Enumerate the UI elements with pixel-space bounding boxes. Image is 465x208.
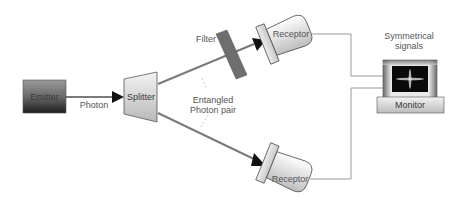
wire-bottom [310,88,384,179]
emitter-node[interactable]: Emitter [23,80,66,113]
signals-label-line1: Symmetrical [384,31,434,41]
filter-node[interactable]: Filter [196,30,247,79]
entangled-label-line1: Entangled [193,95,234,105]
receptor-top-label: Receptor [273,29,310,39]
monitor-label: Monitor [395,100,425,110]
entangled-label-line2: Photon pair [190,105,236,115]
signals-label-line2: signals [395,41,424,51]
splitter-label: Splitter [127,92,155,102]
beam-top [158,38,266,84]
entanglement-diagram: Emitter Photon Splitter Filter Entangled… [0,0,465,208]
monitor-node[interactable]: Monitor [377,60,444,113]
beam-bottom [158,113,266,166]
filter-label: Filter [196,34,216,44]
splitter-node[interactable]: Splitter [124,72,157,122]
wire-top [312,34,384,76]
arrowhead-icon [112,91,124,103]
emitter-label: Emitter [30,92,59,102]
receptor-bottom-label: Receptor [272,174,309,184]
receptor-bottom-node[interactable] [256,143,316,198]
photon-label: Photon [80,100,109,110]
